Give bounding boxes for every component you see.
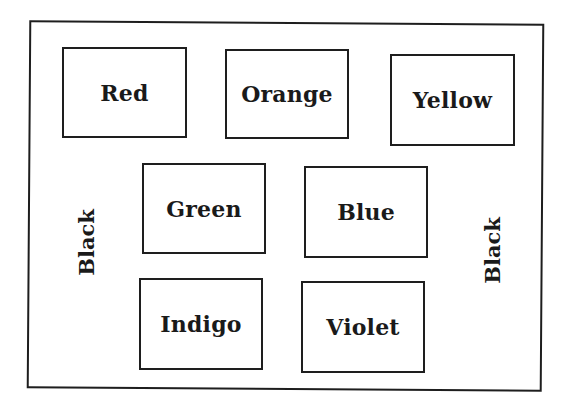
box-red: Red [62, 47, 187, 138]
box-label: Green [166, 196, 241, 222]
box-label: Orange [241, 81, 333, 107]
box-green: Green [142, 163, 266, 254]
box-blue: Blue [304, 166, 428, 258]
box-label: Violet [326, 314, 399, 340]
label-black-left: Black [74, 209, 99, 276]
box-indigo: Indigo [139, 278, 263, 370]
box-label: Indigo [160, 311, 241, 337]
box-violet: Violet [301, 281, 425, 373]
box-label: Blue [337, 199, 395, 225]
box-yellow: Yellow [390, 54, 515, 146]
box-orange: Orange [225, 49, 349, 139]
label-black-right: Black [480, 217, 505, 284]
box-label: Yellow [413, 87, 492, 113]
box-label: Red [100, 80, 148, 106]
